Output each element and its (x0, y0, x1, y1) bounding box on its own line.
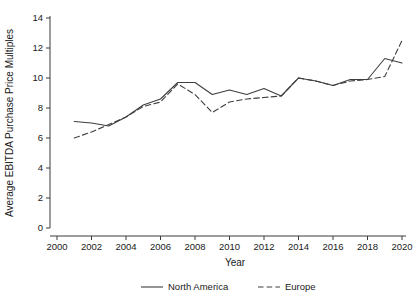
x-tick-label: 2018 (357, 241, 378, 252)
y-axis-title: Average EBITDA Purchase Price Multiples (4, 29, 15, 217)
x-tick-label: 2004 (115, 241, 136, 252)
x-tick-label: 2014 (288, 241, 309, 252)
x-tick-label: 2012 (253, 241, 274, 252)
line-chart: 02468101214 2000200220042006200820102012… (0, 0, 420, 303)
x-axis-title: Year (225, 257, 246, 268)
x-tick-label: 2000 (46, 241, 67, 252)
legend-label-north-america: North America (168, 281, 229, 292)
x-tick-label: 2002 (81, 241, 102, 252)
y-tick-label: 4 (38, 162, 43, 173)
x-tick-label: 2016 (322, 241, 343, 252)
y-tick-label: 10 (32, 72, 43, 83)
y-tick-label: 8 (38, 102, 43, 113)
x-axis: 2000200220042006200820102012201420162018… (46, 236, 412, 252)
series-group (74, 41, 402, 139)
y-tick-label: 0 (38, 222, 43, 233)
x-tick-label: 2010 (219, 241, 240, 252)
x-tick-label: 2006 (150, 241, 171, 252)
y-axis: 02468101214 (32, 12, 50, 233)
y-tick-label: 12 (32, 42, 43, 53)
y-tick-label: 6 (38, 132, 43, 143)
x-tick-label: 2008 (184, 241, 205, 252)
y-tick-label: 14 (32, 12, 43, 23)
x-tick-label: 2020 (391, 241, 412, 252)
series-north-america (74, 59, 402, 127)
series-europe (74, 41, 402, 139)
legend-label-europe: Europe (285, 281, 316, 292)
chart-container: 02468101214 2000200220042006200820102012… (0, 0, 420, 303)
chart-legend: North AmericaEurope (141, 281, 316, 292)
y-tick-label: 2 (38, 192, 43, 203)
